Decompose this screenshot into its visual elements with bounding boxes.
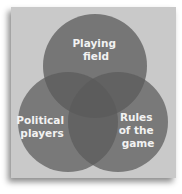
label-political-players: Political players: [16, 114, 67, 139]
label-rules-of-the-game: Rules of the game: [119, 111, 158, 149]
venn-diagram: Playing field Political players Rules of…: [0, 0, 182, 194]
